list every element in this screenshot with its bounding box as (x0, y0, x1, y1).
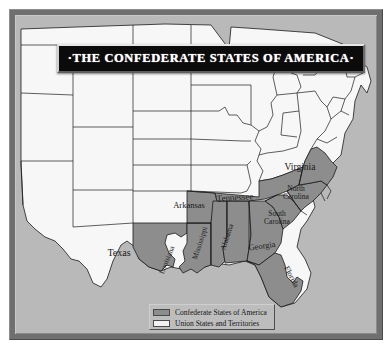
legend-item-confederate: Confederate States of America (153, 307, 271, 318)
map-plate: .union{fill:#f7f7f7;stroke:#1a1a1a;strok… (15, 15, 377, 334)
map-title-banner: ·THE CONFEDERATE STATES OF AMERICA· (57, 44, 365, 73)
legend-label-confederate: Confederate States of America (175, 308, 267, 317)
map-legend: Confederate States of America Union Stat… (149, 304, 275, 330)
map-title-text: ·THE CONFEDERATE STATES OF AMERICA· (68, 51, 355, 66)
union-swatch-icon (153, 320, 170, 327)
confederate-swatch-icon (153, 309, 170, 316)
legend-label-union: Union States and Territories (175, 319, 259, 328)
legend-item-union: Union States and Territories (153, 318, 271, 329)
confederate-states-map-figure: .union{fill:#f7f7f7;stroke:#1a1a1a;strok… (0, 0, 392, 349)
